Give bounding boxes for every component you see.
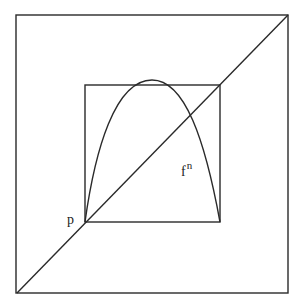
curve-label-base: f (181, 164, 186, 179)
point-label-p: p (67, 212, 74, 227)
diagonal-line (17, 15, 288, 293)
curve-label-fn: fn (181, 159, 193, 179)
renormalization-diagram: p fn (0, 0, 302, 305)
curve-label-superscript: n (187, 159, 193, 171)
fn-curve (85, 80, 220, 222)
